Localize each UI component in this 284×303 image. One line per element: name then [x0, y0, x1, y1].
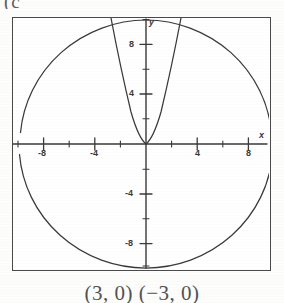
y-tick-label-4: 4: [129, 89, 134, 98]
y-tick-label-neg4: -4: [125, 189, 133, 198]
curve-circle: [21, 20, 270, 133]
x-axis-label: x: [259, 131, 264, 140]
y-axis-label: y: [149, 18, 154, 27]
curve-circle-lower: [20, 155, 270, 269]
figure-root: (c: [0, 0, 284, 303]
header-fragment: (c: [4, 0, 64, 9]
x-tick-label-4: 4: [195, 149, 200, 158]
y-tick-label-8: 8: [129, 40, 134, 49]
plot-frame: -8 -4 4 8 8 4 -4 -8 x y: [12, 17, 271, 271]
x-tick-label-neg4: -4: [90, 149, 98, 158]
y-tick-label-neg8: -8: [125, 239, 133, 248]
x-tick-label-neg8: -8: [38, 149, 46, 158]
figure-caption: (3, 0) (−3, 0): [0, 281, 284, 303]
plot-canvas: [13, 18, 269, 269]
x-tick-label-8: 8: [246, 149, 251, 158]
